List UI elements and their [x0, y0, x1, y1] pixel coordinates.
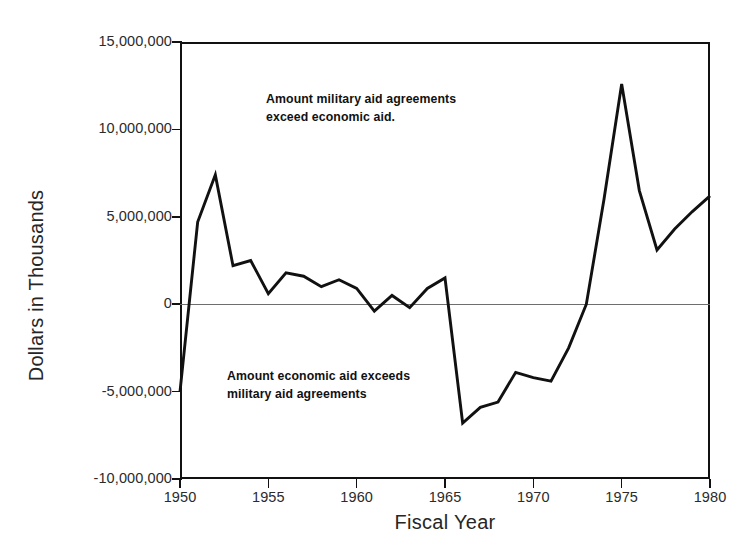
- x-tick-mark: [709, 479, 711, 488]
- x-tick-label: 1980: [675, 489, 745, 505]
- x-tick-label: 1955: [233, 489, 303, 505]
- line-chart-figure: Dollars in Thousands 15,000,00010,000,00…: [0, 0, 756, 555]
- series-layer: [0, 0, 756, 555]
- x-axis-title: Fiscal Year: [180, 511, 710, 534]
- annotation-military-exceeds-economic: Amount military aid agreements exceed ec…: [266, 91, 456, 127]
- x-tick-label: 1975: [587, 489, 657, 505]
- x-tick-label: 1970: [498, 489, 568, 505]
- x-tick-mark: [444, 479, 446, 488]
- x-tick-mark: [356, 479, 358, 488]
- annotation-economic-exceeds-military: Amount economic aid exceeds military aid…: [227, 368, 410, 404]
- x-tick-label: 1950: [145, 489, 215, 505]
- x-tick-mark: [621, 479, 623, 488]
- x-tick-label: 1960: [322, 489, 392, 505]
- x-tick-mark: [268, 479, 270, 488]
- x-tick-mark: [533, 479, 535, 488]
- x-tick-mark: [179, 479, 181, 488]
- x-tick-label: 1965: [410, 489, 480, 505]
